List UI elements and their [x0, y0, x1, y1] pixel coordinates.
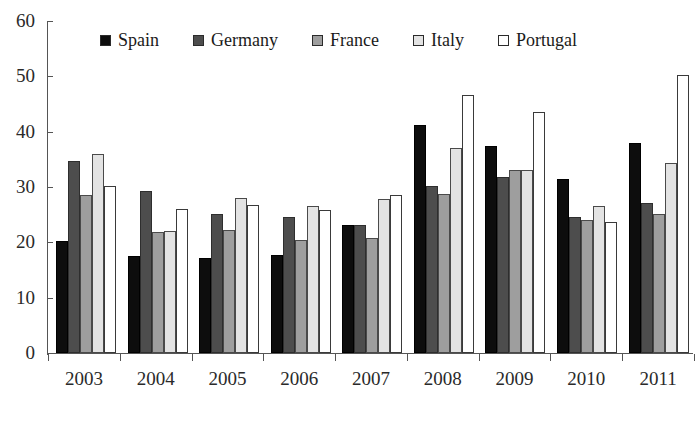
bar-groups — [48, 22, 692, 353]
bar-spain-2003 — [56, 241, 68, 353]
bar-france-2004 — [152, 232, 164, 353]
bar-france-2011 — [653, 214, 665, 353]
legend-item-portugal: Portugal — [498, 31, 577, 49]
x-tick-mark — [622, 354, 623, 361]
bar-germany-2003 — [68, 161, 80, 353]
x-tick-mark — [694, 354, 695, 361]
bar-chart: Spain Germany France Italy Portugal 0102… — [0, 0, 698, 441]
y-tick-label: 60 — [16, 11, 47, 30]
bar-italy-2011 — [665, 163, 677, 353]
x-tick-mark — [192, 354, 193, 361]
bar-germany-2006 — [283, 217, 295, 353]
bar-portugal-2011 — [677, 75, 689, 353]
y-tick-30: 30 — [16, 187, 47, 188]
bar-spain-2009 — [485, 146, 497, 353]
bar-group-2007 — [334, 22, 406, 353]
legend-item-france: France — [312, 31, 379, 49]
x-axis-label-2010: 2010 — [550, 368, 622, 390]
bar-france-2003 — [80, 195, 92, 353]
bar-group-2009 — [477, 22, 549, 353]
legend-swatch-portugal — [498, 35, 509, 46]
bar-italy-2006 — [307, 206, 319, 353]
bar-france-2005 — [223, 230, 235, 353]
x-tick-mark — [550, 354, 551, 361]
legend-item-spain: Spain — [100, 31, 159, 49]
bar-italy-2004 — [164, 231, 176, 353]
y-tick-label: 30 — [16, 177, 47, 196]
x-tick-mark — [479, 354, 480, 361]
bar-germany-2010 — [569, 217, 581, 353]
bar-italy-2010 — [593, 206, 605, 353]
x-tick-mark — [263, 354, 264, 361]
bar-france-2010 — [581, 220, 593, 353]
y-tick-label: 10 — [16, 288, 47, 307]
legend-label-france: France — [330, 31, 379, 49]
bar-portugal-2007 — [390, 195, 402, 353]
bar-group-2011 — [621, 22, 693, 353]
bar-france-2008 — [438, 194, 450, 353]
x-tick-mark — [407, 354, 408, 361]
y-tick-label: 50 — [16, 66, 47, 85]
y-tick-40: 40 — [16, 132, 47, 133]
legend-label-portugal: Portugal — [516, 31, 577, 49]
x-tick-mark — [48, 354, 49, 361]
legend-swatch-italy — [413, 35, 424, 46]
legend-label-germany: Germany — [211, 31, 278, 49]
bar-france-2007 — [366, 238, 378, 353]
bar-italy-2003 — [92, 154, 104, 353]
bar-italy-2008 — [450, 148, 462, 353]
bar-spain-2008 — [414, 125, 426, 353]
x-tick-mark — [335, 354, 336, 361]
bar-portugal-2005 — [247, 205, 259, 353]
x-axis-label-2003: 2003 — [48, 368, 120, 390]
bar-spain-2006 — [271, 255, 283, 353]
bar-spain-2005 — [199, 258, 211, 353]
bar-group-2004 — [120, 22, 192, 353]
bar-portugal-2008 — [462, 95, 474, 353]
legend-item-italy: Italy — [413, 31, 464, 49]
chart-legend: Spain Germany France Italy Portugal — [100, 31, 577, 49]
bar-portugal-2006 — [319, 210, 331, 353]
bar-portugal-2004 — [176, 209, 188, 353]
bar-spain-2004 — [128, 256, 140, 353]
x-tick-mark — [120, 354, 121, 361]
x-axis-line — [47, 353, 693, 354]
x-axis-label-2011: 2011 — [622, 368, 694, 390]
bar-germany-2005 — [211, 214, 223, 353]
bar-germany-2011 — [641, 203, 653, 354]
x-axis-labels: 200320042005200620072008200920102011 — [48, 368, 694, 390]
x-axis-label-2004: 2004 — [120, 368, 192, 390]
y-tick-label: 20 — [16, 232, 47, 251]
bar-italy-2007 — [378, 199, 390, 353]
y-tick-0: 0 — [26, 353, 48, 354]
bar-spain-2011 — [629, 143, 641, 353]
bar-group-2003 — [48, 22, 120, 353]
legend-swatch-france — [312, 35, 323, 46]
bar-france-2009 — [509, 170, 521, 353]
bar-france-2006 — [295, 240, 307, 353]
plot-area: 0102030405060 — [47, 22, 692, 354]
bar-germany-2007 — [354, 225, 366, 353]
bar-germany-2008 — [426, 186, 438, 353]
y-tick-50: 50 — [16, 76, 47, 77]
x-axis-label-2008: 2008 — [407, 368, 479, 390]
legend-label-italy: Italy — [431, 31, 464, 49]
y-tick-label: 40 — [16, 122, 47, 141]
legend-label-spain: Spain — [118, 31, 159, 49]
bar-italy-2009 — [521, 170, 533, 353]
y-tick-10: 10 — [16, 298, 47, 299]
bar-italy-2005 — [235, 198, 247, 353]
y-tick-label: 0 — [26, 343, 48, 362]
x-axis-label-2009: 2009 — [479, 368, 551, 390]
bar-germany-2009 — [497, 177, 509, 354]
x-axis-label-2005: 2005 — [192, 368, 264, 390]
bar-group-2005 — [191, 22, 263, 353]
bar-germany-2004 — [140, 191, 152, 353]
bar-spain-2007 — [342, 225, 354, 353]
legend-item-germany: Germany — [193, 31, 278, 49]
y-tick-60: 60 — [16, 21, 47, 22]
bar-portugal-2010 — [605, 222, 617, 353]
bar-portugal-2003 — [104, 186, 116, 353]
legend-swatch-spain — [100, 35, 111, 46]
bar-group-2010 — [549, 22, 621, 353]
